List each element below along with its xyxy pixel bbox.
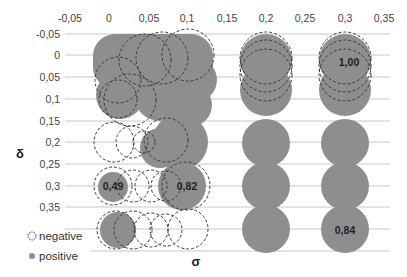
positive-bubble [242,162,290,210]
data-label: 1,00 [339,56,360,68]
data-label: 0,82 [177,180,198,192]
y-tick: 0,35 [40,201,61,213]
positive-series [93,34,371,253]
y-tick: 0 [54,49,60,61]
negative-bubble [150,214,182,246]
data-label: 0,49 [103,180,124,192]
y-tick: 0,2 [45,136,60,148]
y-axis-title: δ [16,146,24,161]
negative-legend-icon [28,232,36,240]
x-tick: 0 [106,12,112,24]
y-tick: 0,05 [40,71,61,83]
x-tick: 0,1 [180,12,195,24]
negative-bubble [134,213,168,247]
positive-bubble [240,64,292,116]
positive-bubble [242,205,290,253]
x-tick: 0,25 [295,12,316,24]
legend-label-negative: negative [39,230,82,242]
x-axis-title: σ [192,254,201,269]
y-tick: 0,15 [40,115,61,127]
positive-bubble [242,119,290,167]
y-tick: -0,05 [36,28,60,40]
x-tick: 0,35 [374,12,395,24]
y-tick: 0,25 [40,158,61,170]
positive-bubble [321,119,369,167]
legend: negative positive [28,230,82,262]
positive-legend-icon [29,253,35,259]
x-axis-ticks: -0,05 0 0,05 0,1 0,15 0,2 0,25 0,3 0,35 [58,12,394,24]
x-tick: -0,05 [58,12,82,24]
legend-label-positive: positive [39,250,78,262]
y-tick: 0,3 [45,180,60,192]
x-tick: 0,15 [217,12,238,24]
x-tick: 0,2 [259,12,274,24]
x-tick: 0,05 [139,12,160,24]
y-tick: 0,1 [45,93,60,105]
bubble-chart: -0,05 0 0,05 0,1 0,15 0,2 0,25 0,3 0,35 … [0,0,407,277]
x-tick: 0,3 [338,12,353,24]
data-label: 0,84 [335,224,356,236]
y-axis-ticks: -0,05 0 0,05 0,1 0,15 0,2 0,25 0,3 0,35 [36,28,60,213]
positive-bubble [321,162,369,210]
positive-bubble [319,64,371,116]
